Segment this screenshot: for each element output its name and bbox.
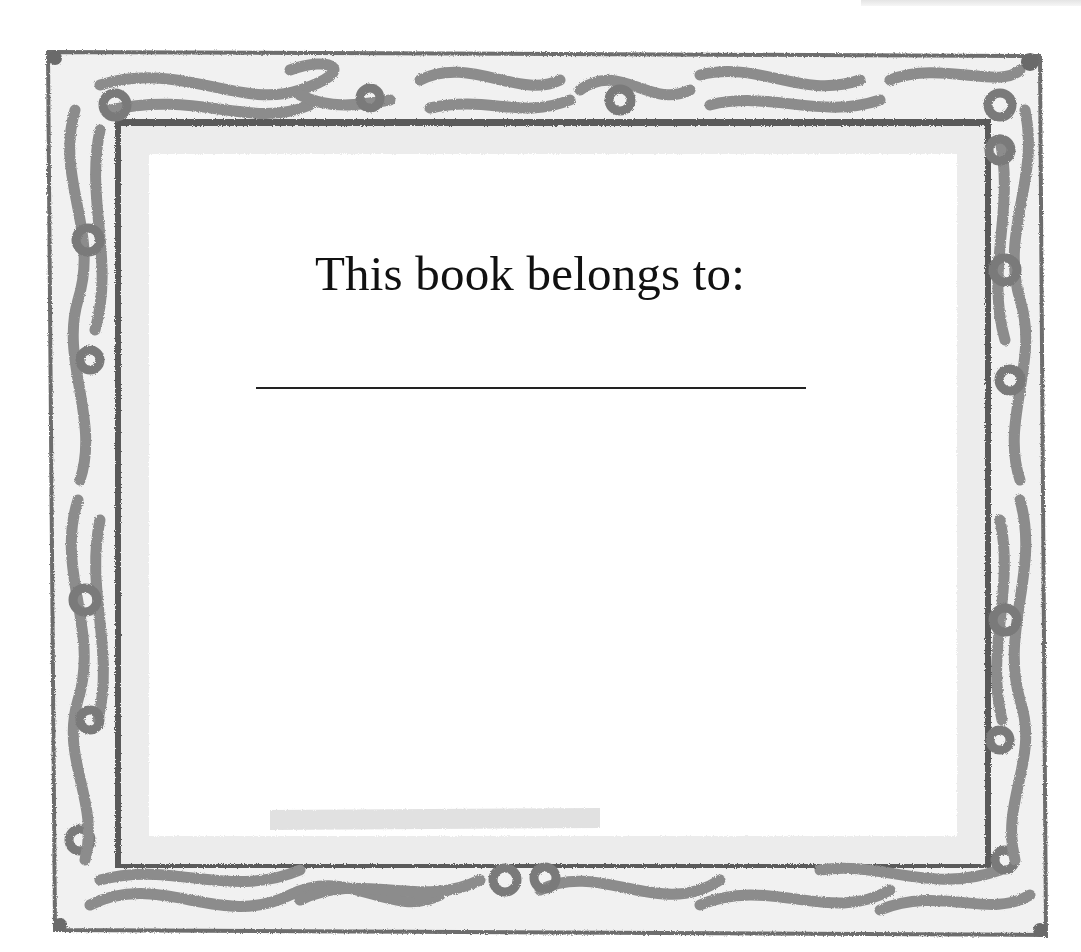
bookplate-title: This book belongs to: (230, 245, 830, 302)
owner-name-line (256, 387, 806, 389)
